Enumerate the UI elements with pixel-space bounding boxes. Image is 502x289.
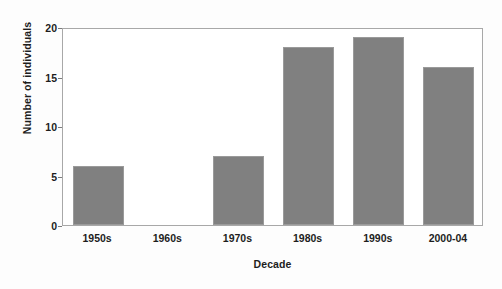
y-tick-mark <box>58 226 62 227</box>
x-tick-label: 1980s <box>273 232 343 244</box>
bar-chart-figure: Number of individuals 05101520 Decade 19… <box>0 0 502 289</box>
x-tick-label: 1950s <box>62 232 132 244</box>
x-axis-title: Decade <box>62 258 483 270</box>
y-tick-label: 10 <box>35 122 57 132</box>
x-tick-label: 2000-04 <box>413 232 483 244</box>
bar <box>283 47 334 225</box>
y-tick-mark <box>58 78 62 79</box>
y-tick-mark <box>58 127 62 128</box>
bar <box>423 67 474 225</box>
x-tick-label: 1960s <box>132 232 202 244</box>
y-axis-tick-labels: 05101520 <box>32 0 57 289</box>
x-tick-label: 1970s <box>202 232 272 244</box>
y-tick-label: 20 <box>35 23 57 33</box>
y-tick-mark <box>58 28 62 29</box>
bar <box>353 37 404 225</box>
bar <box>73 166 124 225</box>
y-tick-mark <box>58 177 62 178</box>
bar <box>213 156 264 225</box>
x-tick-label: 1990s <box>343 232 413 244</box>
bars-container <box>63 29 482 225</box>
y-tick-label: 15 <box>35 73 57 83</box>
plot-area <box>62 28 483 226</box>
y-tick-label: 0 <box>35 221 57 231</box>
y-tick-label: 5 <box>35 172 57 182</box>
